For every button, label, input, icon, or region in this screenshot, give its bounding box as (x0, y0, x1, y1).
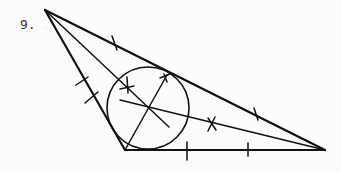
bisector-c (120, 100, 325, 150)
triangle-figure (0, 0, 341, 172)
diagram-page: 9. (0, 0, 341, 172)
tick-mark (127, 77, 128, 93)
side-ac (45, 10, 325, 150)
